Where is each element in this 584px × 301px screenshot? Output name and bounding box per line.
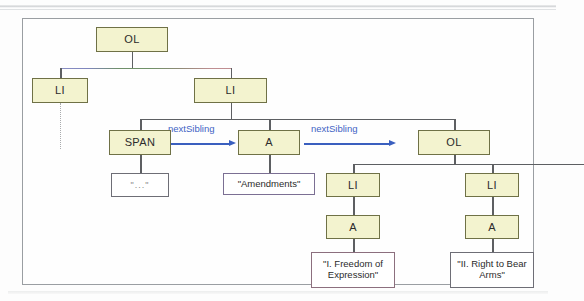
page-top-rule [0, 5, 556, 8]
connector-bus-to-ol-nested [454, 119, 456, 131]
connector-li-n2-to-a-n2 [492, 197, 494, 215]
node-a-nested-2[interactable]: A [465, 215, 519, 239]
connector-li-n1-to-a-n1 [353, 197, 355, 215]
connector-a-n2-to-text [492, 239, 494, 252]
node-li-nested-1[interactable]: LI [326, 173, 380, 197]
connector-span-to-text [140, 155, 142, 173]
textnode-ellipsis: "..." [111, 173, 169, 197]
connector-bus-to-li-left [60, 68, 62, 79]
arrow-head-span-to-a [229, 140, 236, 146]
page-bottom-edge [8, 291, 548, 294]
connector-ol-root-stem [132, 52, 134, 68]
node-li-nested-2[interactable]: LI [465, 173, 519, 197]
connector-root-bus [60, 68, 232, 70]
connector-li-right-bus [140, 119, 455, 121]
node-ol-nested[interactable]: OL [418, 130, 490, 155]
connector-a-to-text-amendments [269, 155, 271, 173]
arrow-label-a-to-ol: nextSibling [311, 123, 357, 134]
page-top-rule-hairline [0, 9, 556, 10]
connector-bus-to-span [140, 119, 142, 131]
connector-bus-to-li-n2 [492, 164, 494, 174]
arrow-line-a-to-ol [304, 143, 390, 145]
connector-bus-to-a-amendments [269, 119, 271, 131]
connector-bus-to-li-right [231, 68, 233, 79]
textnode-freedom-of-expression: "I. Freedom of Expression" [311, 252, 395, 288]
textnode-amendments: "Amendments" [223, 173, 315, 195]
connector-bus-to-li-n1 [353, 164, 355, 174]
connector-li-right-stem [231, 103, 233, 119]
node-span[interactable]: SPAN [109, 130, 171, 155]
node-ol-root[interactable]: OL [96, 27, 168, 52]
arrow-label-span-to-a: nextSibling [168, 123, 214, 134]
figure-panel: nextSibling nextSibling OL LI LI SPAN A … [22, 18, 534, 285]
node-li-right[interactable]: LI [194, 78, 267, 103]
arrow-head-a-to-ol [389, 140, 396, 146]
node-a-nested-1[interactable]: A [326, 215, 380, 239]
arrow-line-span-to-a [168, 143, 230, 145]
textnode-right-to-bear-arms: "II. Right to Bear Arms" [450, 252, 534, 288]
node-a-amendments[interactable]: A [238, 130, 300, 155]
connector-li-left-dotted-continuation [60, 103, 61, 149]
node-li-left[interactable]: LI [32, 78, 88, 103]
connector-ol-nested-bus [353, 164, 584, 166]
connector-a-n1-to-text [353, 239, 355, 252]
